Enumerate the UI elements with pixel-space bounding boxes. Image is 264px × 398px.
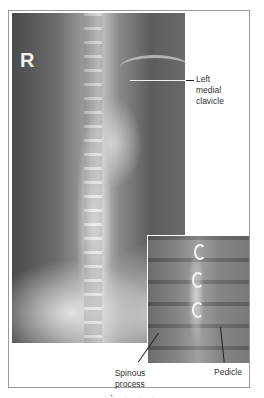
leader-line-clavicle-ext <box>186 80 194 81</box>
caption-partial: · . . . <box>110 392 170 398</box>
side-marker-r: R <box>20 50 34 70</box>
spinous-process-ring <box>194 244 206 260</box>
spinous-process-ring <box>192 302 204 318</box>
inset-vertebrae-image <box>147 235 249 363</box>
spinous-process-ring <box>192 272 204 288</box>
spine-shadow <box>84 13 102 343</box>
label-pedicle: Pedicle <box>214 367 242 378</box>
leader-line-clavicle <box>130 80 186 81</box>
clavicle-shadow <box>120 55 190 80</box>
label-left-medial-clavicle: Left medial clavicle <box>196 74 224 107</box>
label-spinous-process: Spinous process <box>115 368 146 390</box>
